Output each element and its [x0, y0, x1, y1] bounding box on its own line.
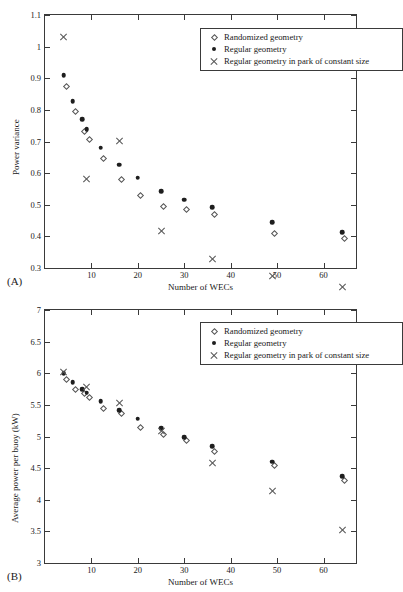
data-point [160, 431, 167, 438]
y-axis-tick [45, 205, 50, 206]
x-axis-tick-label: 40 [226, 566, 235, 575]
y-axis-tick [351, 268, 356, 269]
panel-label-b: (B) [7, 571, 22, 582]
data-point [268, 486, 277, 495]
legend-label: Randomized geometry [224, 33, 303, 42]
x-axis-tick [91, 310, 92, 315]
data-point [159, 189, 164, 194]
y-axis-tick [45, 15, 50, 16]
y-axis-tick-label: 1 [37, 42, 41, 51]
data-point [61, 73, 66, 78]
y-axis-tick [351, 173, 356, 174]
data-point [211, 447, 218, 454]
y-axis-tick [45, 236, 50, 237]
data-point [182, 435, 187, 440]
circle-filled-marker [204, 47, 224, 52]
x-axis-tick-label: 40 [226, 271, 235, 280]
legend-label: Regular geometry [224, 45, 286, 54]
data-point [80, 387, 85, 392]
legend-label: Regular geometry [224, 339, 286, 348]
x-axis-tick [231, 263, 232, 268]
data-point [270, 220, 275, 225]
y-axis-tick-label: 6 [37, 369, 41, 378]
x-axis-tick [324, 263, 325, 268]
data-point [118, 410, 125, 417]
plot-frame-b: 33.544.555.566.57102030405060 Randomized… [44, 309, 357, 564]
data-point [80, 117, 85, 122]
data-point [157, 427, 166, 436]
data-point [271, 462, 278, 469]
legend-item: Randomized geometry [204, 31, 398, 43]
y-axis-tick-label: 4 [37, 496, 41, 505]
data-point [59, 33, 68, 42]
data-point [270, 460, 275, 465]
data-point [71, 380, 76, 385]
x-axis-tick [277, 15, 278, 20]
data-point [72, 108, 79, 115]
legend-label: Randomized geometry [224, 327, 303, 336]
x-axis-tick [91, 558, 92, 563]
y-axis-tick-label: 5 [37, 432, 41, 441]
x-axis-tick [277, 558, 278, 563]
y-axis-tick [45, 173, 50, 174]
x-axis-tick [324, 15, 325, 20]
y-axis-tick-label: 0.8 [30, 106, 41, 115]
data-point [86, 394, 93, 401]
data-point [82, 175, 91, 184]
x-axis-tick-label: 50 [273, 271, 282, 280]
y-axis-tick [45, 310, 50, 311]
x-axis-tick [91, 263, 92, 268]
legend-b: Randomized geometry Regular geometry Reg… [200, 322, 403, 365]
data-point [160, 203, 167, 210]
data-point [81, 390, 88, 397]
data-point [271, 230, 278, 237]
cross-marker [204, 57, 224, 66]
x-axis-tick [138, 263, 139, 268]
x-axis-tick-label: 50 [273, 566, 282, 575]
y-axis-tick [351, 142, 356, 143]
data-point [159, 426, 164, 431]
x-axis-tick-label: 30 [180, 271, 189, 280]
x-axis-tick [231, 558, 232, 563]
y-axis-tick [45, 405, 50, 406]
data-point [137, 192, 144, 199]
data-point [340, 474, 345, 479]
data-point [182, 197, 187, 202]
cross-marker [204, 351, 224, 360]
data-point [84, 391, 89, 396]
x-axis-tick [324, 558, 325, 563]
data-point [115, 398, 124, 407]
data-point [210, 444, 215, 449]
legend-label: Regular geometry in park of constant siz… [224, 351, 369, 360]
y-axis-tick [45, 500, 50, 501]
y-axis-tick [351, 373, 356, 374]
y-axis-tick-label: 0.9 [30, 74, 41, 83]
circle-filled-marker [204, 341, 224, 346]
x-axis-tick [91, 15, 92, 20]
data-point [210, 205, 215, 210]
x-axis-tick-label: 30 [180, 566, 189, 575]
y-axis-tick [351, 500, 356, 501]
data-point [81, 127, 88, 134]
x-axis-tick [138, 558, 139, 563]
x-axis-tick [184, 263, 185, 268]
y-axis-tick-label: 4.5 [30, 464, 41, 473]
data-point [137, 424, 144, 431]
y-axis-tick-label: 0.7 [30, 137, 41, 146]
data-point [136, 416, 141, 421]
y-axis-tick-label: 0.3 [30, 264, 41, 273]
data-point [98, 145, 103, 150]
data-point [341, 477, 348, 484]
y-axis-tick [45, 142, 50, 143]
data-point [338, 526, 347, 535]
y-axis-tick [351, 78, 356, 79]
data-point [63, 376, 70, 383]
x-axis-tick [184, 310, 185, 315]
data-point [117, 162, 122, 167]
data-point [118, 176, 125, 183]
y-axis-tick [45, 531, 50, 532]
x-axis-tick [184, 558, 185, 563]
x-axis-tick-label: 10 [87, 566, 96, 575]
x-axis-tick [184, 15, 185, 20]
